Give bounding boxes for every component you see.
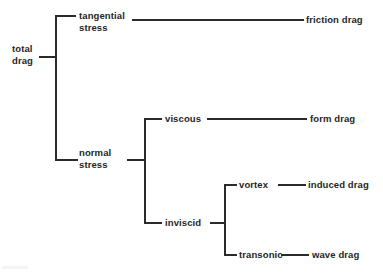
node-label-form-drag: form drag: [310, 113, 355, 124]
node-label-total-drag-line1: total: [12, 43, 33, 54]
node-label-wave-drag: wave drag: [311, 249, 359, 260]
node-label-transonic: transonic: [239, 249, 283, 260]
node-label-tangential-stress-line1: tangential: [79, 10, 125, 21]
node-label-vortex: vortex: [239, 179, 269, 190]
node-label-normal-stress-line1: normal: [79, 147, 111, 158]
node-label-friction-drag: friction drag: [306, 14, 363, 25]
scan-artifact: [2, 266, 28, 269]
tree-svg: total drag tangential stress normal stre…: [0, 0, 383, 274]
node-label-normal-stress-line2: stress: [79, 159, 108, 170]
node-label-total-drag-line2: drag: [12, 55, 33, 66]
node-label-inviscid: inviscid: [165, 217, 201, 228]
node-label-tangential-stress-line2: stress: [79, 22, 108, 33]
node-label-induced-drag: induced drag: [308, 179, 369, 190]
drag-classification-diagram: total drag tangential stress normal stre…: [0, 0, 383, 274]
node-label-viscous: viscous: [165, 113, 201, 124]
